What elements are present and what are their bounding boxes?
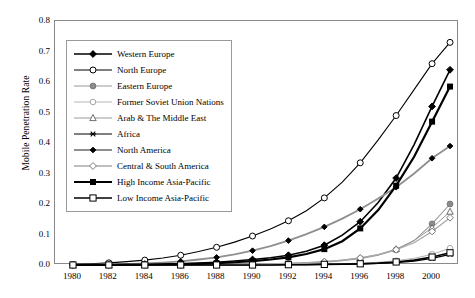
series-line	[73, 204, 450, 265]
x-tick-label: 1982	[88, 272, 128, 281]
y-tick-label: 0.4	[24, 138, 50, 147]
data-point-marker-open-square	[70, 262, 76, 268]
data-point-marker-open-circle	[321, 195, 327, 201]
data-point-marker-open-square	[214, 262, 220, 268]
y-tick-label: 0.8	[24, 16, 50, 25]
legend-marker-open-circle-icon	[71, 63, 115, 77]
y-tick-label: 0.2	[24, 199, 50, 208]
legend-label: High Income Asia-Pacific	[115, 178, 210, 187]
data-point-marker-filled-square	[357, 225, 363, 231]
data-point-marker-open-square	[249, 262, 255, 268]
legend-marker-asterisk-icon	[71, 127, 115, 141]
legend-item[interactable]: Central & South America	[71, 158, 227, 174]
legend-marker-gray-open-diamond-icon	[71, 159, 115, 173]
data-point-marker-open-circle	[250, 233, 256, 239]
data-point-marker-filled-square	[285, 254, 291, 260]
legend-label: Africa	[115, 130, 140, 139]
legend-label: Western Europe	[115, 50, 175, 59]
data-point-marker-asterisk	[90, 132, 96, 137]
legend-item[interactable]: Eastern Europe	[71, 78, 227, 94]
legend-item[interactable]: Arab & The Middle East	[71, 110, 227, 126]
x-tick-label: 1984	[124, 272, 164, 281]
x-tick-label: 1998	[375, 272, 415, 281]
data-point-marker-filled-square	[90, 179, 96, 185]
legend-label: Arab & The Middle East	[115, 114, 206, 123]
data-point-marker-open-square	[178, 262, 184, 268]
data-point-marker-filled-square	[393, 183, 399, 189]
data-point-marker-open-circle	[357, 160, 363, 166]
data-point-marker-filled-diamond	[90, 51, 97, 58]
legend-marker-gray-filled-circle-icon	[71, 79, 115, 93]
y-tick-label: 0.5	[24, 107, 50, 116]
data-point-marker-open-circle	[393, 113, 399, 119]
data-point-marker-small-filled-diamond	[250, 248, 256, 254]
data-point-marker-gray-filled-circle	[447, 201, 453, 207]
data-point-marker-open-square	[285, 262, 291, 268]
x-tick-label: 1986	[160, 272, 200, 281]
legend-item[interactable]: Former Soviet Union Nations	[71, 94, 227, 110]
x-tick-label: 1988	[196, 272, 236, 281]
data-point-marker-small-filled-diamond	[286, 238, 292, 244]
data-point-marker-filled-diamond	[447, 66, 454, 73]
legend-label: North Europe	[115, 66, 166, 75]
y-tick-label: 0.1	[24, 229, 50, 238]
legend-marker-light-open-circle-icon	[71, 95, 115, 109]
legend-label: North America	[115, 146, 171, 155]
x-tick-label: 1990	[232, 272, 272, 281]
y-tick-label: 0.7	[24, 46, 50, 55]
data-point-marker-open-square	[393, 259, 399, 265]
x-tick-label: 1992	[267, 272, 307, 281]
legend-item[interactable]: Western Europe	[71, 46, 227, 62]
y-axis-tick-labels: 0.00.10.20.30.40.50.60.70.8	[22, 0, 50, 298]
legend-marker-triangle-icon	[71, 111, 115, 125]
data-point-marker-open-square	[357, 261, 363, 267]
data-point-marker-gray-filled-circle	[90, 83, 96, 89]
x-tick-label: 1996	[339, 272, 379, 281]
data-point-marker-filled-square	[429, 119, 435, 125]
legend-marker-filled-square-icon	[71, 175, 115, 189]
x-tick-label: 2000	[411, 272, 451, 281]
data-point-marker-light-open-circle	[90, 99, 96, 105]
legend-item[interactable]: Africa	[71, 126, 227, 142]
legend-marker-small-filled-diamond-icon	[71, 143, 115, 157]
data-point-marker-open-circle	[429, 61, 435, 67]
legend-item[interactable]: Low Income Asia-Pacific	[71, 190, 227, 206]
data-point-marker-open-circle	[447, 39, 453, 45]
series-line	[73, 212, 450, 265]
data-point-marker-open-square	[90, 195, 96, 201]
y-tick-label: 0.6	[24, 77, 50, 86]
x-axis-tick-labels: 1980198219841986198819901992199419961998…	[0, 272, 475, 288]
data-point-marker-open-square	[447, 250, 453, 256]
data-point-marker-small-filled-diamond	[322, 224, 328, 230]
data-point-marker-open-circle	[285, 218, 291, 224]
legend-marker-open-square-icon	[71, 191, 115, 205]
data-point-marker-open-square	[429, 254, 435, 260]
data-point-marker-open-square	[321, 261, 327, 267]
legend-label: Eastern Europe	[115, 82, 172, 91]
data-point-marker-open-circle	[214, 244, 220, 250]
x-tick-label: 1994	[303, 272, 343, 281]
legend-label: Low Income Asia-Pacific	[115, 194, 209, 203]
data-point-marker-open-circle	[178, 252, 184, 258]
y-tick-label: 0.3	[24, 168, 50, 177]
legend-item[interactable]: North Europe	[71, 62, 227, 78]
data-point-marker-filled-square	[447, 84, 453, 90]
data-point-marker-open-square	[106, 262, 112, 268]
x-tick-label: 1980	[52, 272, 92, 281]
chart-legend: Western EuropeNorth EuropeEastern Europe…	[66, 40, 232, 212]
data-point-marker-triangle	[447, 208, 453, 214]
data-point-marker-gray-open-diamond	[90, 163, 97, 170]
data-point-marker-small-filled-diamond	[214, 255, 220, 261]
data-point-marker-open-square	[142, 262, 148, 268]
y-tick-label: 0.0	[24, 260, 50, 269]
mobile-penetration-line-chart: Mobile Penetration Rate 0.00.10.20.30.40…	[0, 0, 475, 298]
legend-label: Former Soviet Union Nations	[115, 98, 224, 107]
data-point-marker-small-filled-diamond	[90, 147, 96, 153]
legend-item[interactable]: High Income Asia-Pacific	[71, 174, 227, 190]
data-point-marker-open-circle	[90, 67, 96, 73]
data-point-marker-filled-diamond	[429, 103, 436, 110]
legend-item[interactable]: North America	[71, 142, 227, 158]
legend-label: Central & South America	[115, 162, 209, 171]
legend-marker-filled-diamond-icon	[71, 47, 115, 61]
data-point-marker-filled-square	[321, 246, 327, 252]
